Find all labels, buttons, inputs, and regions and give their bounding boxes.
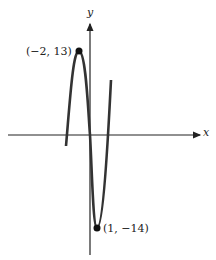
curve: [66, 51, 111, 228]
min-point-label: (1, −14): [103, 222, 149, 235]
y-axis-label: y: [87, 6, 93, 19]
min-point-marker: [94, 225, 101, 232]
chart-canvas: [0, 0, 216, 260]
max-point-label: (−2, 13): [26, 45, 72, 58]
x-axis-label: x: [203, 126, 209, 139]
max-point-marker: [76, 48, 83, 55]
